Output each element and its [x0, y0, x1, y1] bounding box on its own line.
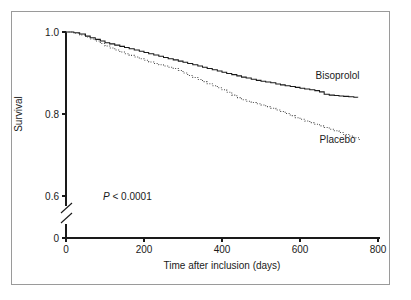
x-tick-label: 800: [370, 244, 387, 255]
p-value-annotation: P < 0.0001: [103, 191, 152, 202]
curves-group: [66, 32, 359, 141]
y-axis-title: Survival: [13, 96, 24, 132]
survival-plot: 00.60.81.00200400600800 Time after inclu…: [0, 0, 411, 300]
axis-break-slash-lower: [61, 213, 72, 223]
y-tick-label: 0.6: [45, 191, 59, 202]
x-tick-label: 400: [214, 244, 231, 255]
x-tick-label: 200: [136, 244, 153, 255]
y-tick-label: 0.8: [45, 109, 59, 120]
series-label-placebo: Placebo: [320, 134, 357, 145]
figure-root: 00.60.81.00200400600800 Time after inclu…: [0, 0, 411, 300]
p-value-comparison: < 0.0001: [110, 191, 152, 202]
series-label-bisoprolol: Bisoprolol: [316, 70, 360, 81]
survival-curve-bisoprolol: [66, 32, 358, 98]
labels-group: Time after inclusion (days)SurvivalBisop…: [13, 70, 360, 271]
x-tick-label: 0: [63, 244, 69, 255]
y-tick-label: 0: [53, 233, 59, 244]
y-tick-label: 1.0: [45, 27, 59, 38]
survival-curve-placebo: [66, 32, 359, 141]
x-axis-title: Time after inclusion (days): [164, 260, 281, 271]
x-tick-label: 600: [292, 244, 309, 255]
